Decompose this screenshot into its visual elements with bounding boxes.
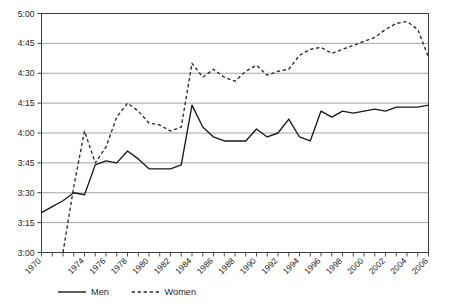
chart-canvas: 5:004:454:304:154:003:453:303:153:00 197…	[0, 0, 456, 308]
y-axis-tick-label: 4:00	[18, 128, 35, 138]
legend-label-women: Women	[165, 287, 197, 297]
y-axis-tick-label: 5:00	[18, 9, 35, 19]
legend-label-men: Men	[91, 287, 109, 297]
y-axis-tick-label: 4:45	[18, 38, 35, 48]
y-axis-tick-label: 3:00	[18, 248, 35, 258]
y-axis-tick-label: 3:45	[18, 158, 35, 168]
y-axis-tick-labels: 5:004:454:304:154:003:453:303:153:00	[18, 9, 35, 258]
y-axis-tick-label: 4:15	[18, 98, 35, 108]
chart-title	[0, 0, 456, 4]
y-axis-tick-label: 3:30	[18, 188, 35, 198]
time-series-chart: 5:004:454:304:154:003:453:303:153:00 197…	[0, 0, 456, 308]
y-axis-tick-label: 3:15	[18, 218, 35, 228]
y-axis-tick-label: 4:30	[18, 68, 35, 78]
